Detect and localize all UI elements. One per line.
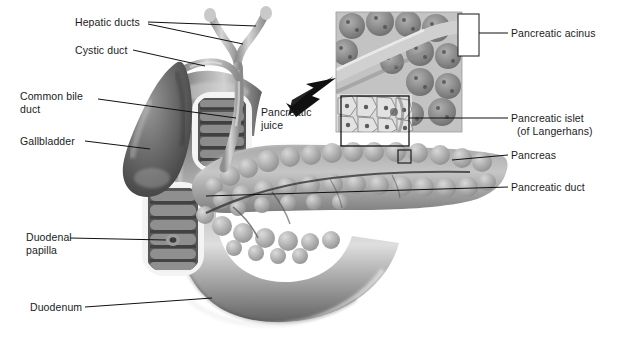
label-common-bile-duct: Common bile duct — [20, 90, 83, 116]
label-duodenal-papilla: Duodenal papilla — [26, 231, 72, 257]
acinus-inset — [332, 8, 462, 133]
label-pancreas: Pancreas — [511, 149, 556, 162]
leader-cystic-duct — [133, 50, 205, 66]
duodenum-window-lower — [144, 184, 202, 274]
label-pancreatic-duct: Pancreatic duct — [511, 181, 585, 194]
label-pancreatic-juice-line2: juice — [261, 119, 312, 132]
acinus-bracket — [458, 14, 479, 56]
label-pancreatic-islet-line2: (of Langerhans) — [511, 125, 593, 138]
label-pancreatic-juice-line1: Pancreatic — [261, 106, 312, 119]
duodenal-papilla-point — [166, 234, 180, 246]
label-gallbladder: Gallbladder — [20, 135, 75, 148]
leader-hepatic-ducts — [148, 22, 256, 26]
anatomy-figure: Hepatic ducts Cystic duct Common bile du… — [0, 0, 618, 352]
leader-hepatic-ducts-2 — [148, 24, 243, 44]
label-duodenal-papilla-line2: papilla — [26, 244, 72, 257]
label-cystic-duct: Cystic duct — [75, 44, 127, 57]
label-common-bile-duct-line2: duct — [20, 103, 83, 116]
label-hepatic-ducts: Hepatic ducts — [75, 16, 140, 29]
label-pancreatic-acinus: Pancreatic acinus — [511, 27, 596, 40]
label-duodenum: Duodenum — [30, 301, 82, 314]
label-pancreatic-islet: Pancreatic islet (of Langerhans) — [511, 112, 593, 138]
label-pancreatic-juice: Pancreatic juice — [261, 106, 312, 132]
label-duodenal-papilla-line1: Duodenal — [26, 231, 72, 244]
label-common-bile-duct-line1: Common bile — [20, 90, 83, 103]
label-pancreatic-islet-line1: Pancreatic islet — [511, 112, 593, 125]
